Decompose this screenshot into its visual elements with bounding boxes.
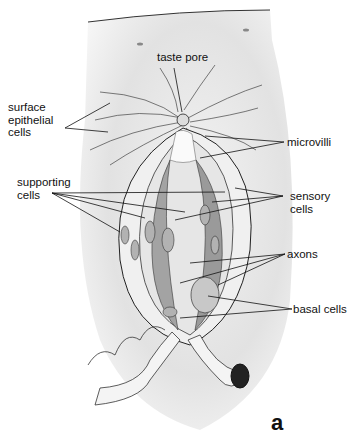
- label-sensory-cells: sensory cells: [290, 190, 330, 215]
- basal-cell: [191, 277, 219, 313]
- nerve-cross-section: [231, 364, 249, 388]
- taste-pore: [177, 114, 189, 126]
- taste-bud-illustration: [0, 0, 353, 438]
- label-axons: axons: [287, 248, 318, 261]
- label-taste-pore: taste pore: [157, 51, 208, 64]
- label-basal-cells: basal cells: [293, 303, 347, 316]
- panel-label: a: [271, 410, 283, 436]
- label-supporting-cells: supporting cells: [17, 176, 71, 201]
- label-surface-epithelial-cells: surface epithelial cells: [8, 101, 53, 139]
- label-microvilli: microvilli: [287, 136, 331, 149]
